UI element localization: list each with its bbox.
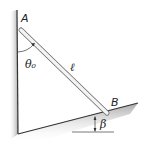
label-theta: θ₀ [25, 58, 37, 71]
incline-shading [12, 103, 138, 144]
theta-arc [18, 44, 35, 52]
label-point-b: B [111, 96, 119, 109]
rod [21, 30, 107, 113]
label-beta: β [99, 118, 106, 131]
beta-arrowhead-bottom [94, 128, 97, 132]
rod-wall-incline-diagram: A θ₀ ℓ B β [0, 0, 155, 152]
label-point-a: A [20, 12, 29, 25]
label-length: ℓ [70, 61, 75, 74]
